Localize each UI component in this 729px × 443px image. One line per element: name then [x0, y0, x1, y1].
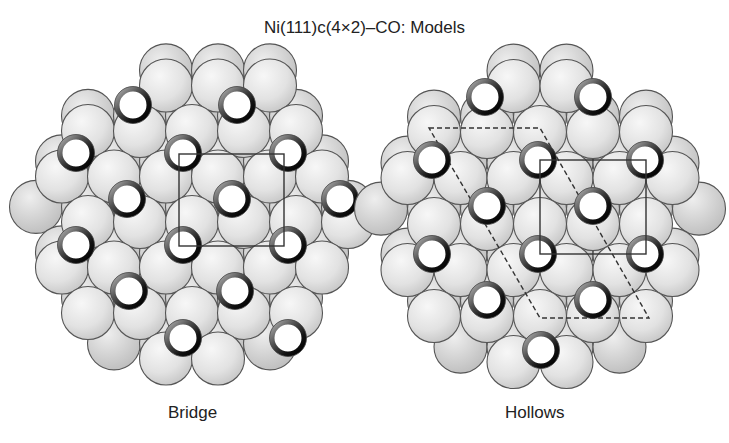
- bridge-label: Bridge: [168, 403, 217, 423]
- co-molecule-icon: [165, 227, 202, 264]
- co-molecule-icon: [575, 79, 612, 116]
- ni-atom: [620, 290, 673, 343]
- co-molecule-icon: [214, 181, 251, 218]
- co-molecule-icon: [115, 87, 152, 124]
- co-molecule-icon: [469, 188, 506, 225]
- co-molecule-icon: [469, 282, 506, 319]
- ni-atom: [408, 290, 461, 343]
- co-molecule-icon: [270, 320, 307, 357]
- hollows-label: Hollows: [505, 403, 565, 423]
- co-molecule-icon: [575, 282, 612, 319]
- co-molecule-icon: [109, 181, 146, 218]
- co-molecule-icon: [217, 273, 254, 310]
- hollows-model-panel: [355, 44, 726, 388]
- co-molecule-icon: [165, 320, 202, 357]
- co-molecule-icon: [219, 87, 256, 124]
- co-molecule-icon: [111, 273, 148, 310]
- surface-atoms: [36, 59, 375, 385]
- co-molecule-icon: [58, 227, 95, 264]
- bridge-model-panel: [10, 44, 375, 385]
- co-molecule-icon: [270, 135, 307, 172]
- co-molecule-icon: [58, 135, 95, 172]
- ni-atom: [62, 287, 115, 340]
- co-molecule-icon: [575, 188, 612, 225]
- co-molecule-icon: [322, 181, 359, 218]
- co-molecule-icon: [414, 142, 451, 179]
- surface-models-diagram: [0, 0, 729, 443]
- co-molecule-icon: [523, 332, 560, 369]
- co-molecule-icon: [270, 227, 307, 264]
- co-molecule-icon: [467, 79, 504, 116]
- co-molecule-icon: [414, 236, 451, 273]
- co-molecule-icon: [165, 135, 202, 172]
